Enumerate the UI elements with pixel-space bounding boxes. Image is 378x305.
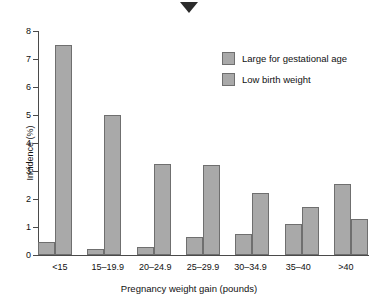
chart-legend: Large for gestational ageLow birth weigh…	[222, 52, 347, 86]
x-axis-tick: 25–29.9	[181, 256, 225, 276]
bar	[186, 237, 203, 255]
x-axis-label: Pregnancy weight gain (pounds)	[0, 283, 378, 294]
bar-group	[87, 31, 121, 255]
bar	[104, 115, 121, 255]
x-axis-tick-label: 20–24.9	[133, 262, 177, 272]
bar	[302, 207, 319, 255]
bar	[87, 249, 104, 255]
y-axis-tick-label: 1	[26, 223, 31, 232]
x-axis-ticks: <1515–19.920–24.925–29.930–34.935–40>40	[38, 256, 368, 276]
y-axis-tick-label: 5	[26, 111, 31, 120]
legend-label: Low birth weight	[242, 74, 311, 85]
y-axis-tick-label: 8	[26, 27, 31, 36]
bar-group	[38, 31, 72, 255]
y-axis-tick-label: 3	[26, 167, 31, 176]
x-axis-tick-label: >40	[324, 262, 368, 272]
bar	[137, 247, 154, 255]
x-axis-tick-label: <15	[38, 262, 82, 272]
x-axis-tick: 35–40	[276, 256, 320, 276]
x-axis-tick-label: 30–34.9	[229, 262, 273, 272]
bar-group	[137, 31, 171, 255]
x-axis-tick: 20–24.9	[133, 256, 177, 276]
x-axis-tick-label: 35–40	[276, 262, 320, 272]
legend-swatch-icon	[222, 52, 235, 65]
y-axis-tick-label: 6	[26, 83, 31, 92]
y-axis-tick-label: 0	[26, 251, 31, 260]
bar	[55, 45, 72, 255]
y-axis-tick-label: 4	[26, 139, 31, 148]
chart-figure: Incidence (%) 012345678 <1515–19.920–24.…	[0, 0, 378, 305]
bar	[235, 234, 252, 255]
legend-swatch-icon	[222, 73, 235, 86]
legend-label: Large for gestational age	[242, 53, 347, 64]
x-axis-tick: <15	[38, 256, 82, 276]
x-axis-tick: 30–34.9	[229, 256, 273, 276]
legend-item: Large for gestational age	[222, 52, 347, 65]
bar	[252, 193, 269, 255]
y-axis-tick-label: 7	[26, 55, 31, 64]
x-axis-tick: 15–19.9	[86, 256, 130, 276]
bar	[203, 165, 220, 255]
bar	[285, 224, 302, 255]
bar	[154, 164, 171, 255]
top-marker-container	[0, 2, 378, 13]
bar	[334, 184, 351, 255]
bar	[351, 219, 368, 255]
down-triangle-marker-icon	[180, 2, 198, 13]
x-axis-tick-label: 25–29.9	[181, 262, 225, 272]
bar	[38, 242, 55, 255]
y-axis-tick-label: 2	[26, 195, 31, 204]
x-axis-tick: >40	[324, 256, 368, 276]
bar-group	[186, 31, 220, 255]
legend-item: Low birth weight	[222, 73, 347, 86]
x-axis-tick-label: 15–19.9	[86, 262, 130, 272]
